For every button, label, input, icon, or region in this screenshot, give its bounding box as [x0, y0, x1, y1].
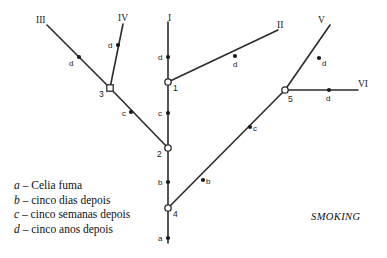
marker-d-branch-ii [233, 54, 237, 58]
node-3-marker [107, 85, 113, 91]
node-3-label: 3 [99, 90, 104, 99]
legend-text: cinco dias depois [31, 194, 110, 206]
branch-label-v: V [318, 16, 325, 26]
edge-5-to-v [285, 25, 330, 90]
diagram-page: IIIIIIIVVVI 12345 abbcccdddddd a – Celia… [0, 0, 387, 258]
marker-d-branch-iv-label: d [108, 42, 112, 50]
legend-row: d – cinco anos depois [14, 222, 130, 237]
marker-c-branch-45 [248, 125, 252, 129]
edge-1-to-ii [168, 30, 278, 82]
legend-row: a – Celia fuma [14, 178, 130, 193]
legend-text: cinco semanas depois [31, 208, 131, 220]
marker-d-branch-vi-label: d [326, 95, 330, 103]
legend-text: Celia fuma [31, 179, 82, 191]
node-2-marker [165, 145, 171, 151]
marker-d-trunk-label: d [158, 54, 162, 62]
legend-key: c [14, 208, 19, 220]
marker-a-trunk-label: a [158, 235, 162, 243]
legend-key: d [14, 223, 20, 235]
branch-label-vi: VI [358, 80, 368, 90]
node-4-marker [165, 205, 171, 211]
legend-text: cinco anos depois [31, 223, 113, 235]
marker-b-trunk-label: b [158, 179, 162, 187]
marker-d-branch-iii [77, 55, 81, 59]
marker-c-branch-23 [129, 110, 133, 114]
branch-nodes-group [107, 79, 288, 211]
legend: a – Celia fumab – cinco dias depoisc – c… [14, 178, 130, 236]
figure-caption: SMOKING [311, 211, 360, 222]
marker-d-branch-v-label: d [322, 60, 326, 68]
marker-d-branch-ii-label: d [233, 61, 237, 69]
branch-label-iv: IV [118, 14, 128, 24]
marker-d-branch-iii-label: d [69, 60, 73, 68]
legend-dash: – [23, 194, 32, 206]
marker-d-trunk [166, 55, 170, 59]
marker-b-trunk [166, 180, 170, 184]
marker-d-branch-vi [327, 88, 331, 92]
marker-c-branch-23-label: c [122, 110, 126, 118]
node-1-label: 1 [173, 84, 178, 93]
branch-label-iii: III [36, 16, 46, 26]
node-5-label: 5 [288, 95, 293, 104]
legend-dash: – [23, 223, 32, 235]
marker-a-trunk [166, 236, 170, 240]
edge-4-to-5 [168, 90, 285, 208]
legend-dash: – [23, 179, 32, 191]
marker-d-branch-iv [116, 43, 120, 47]
branch-label-ii: II [277, 21, 283, 31]
edge-3-to-iv [110, 24, 123, 88]
marker-d-branch-v [317, 56, 321, 60]
node-2-label: 2 [157, 150, 162, 159]
legend-row: c – cinco semanas depois [14, 207, 130, 222]
marker-b-branch-45-label: b [206, 178, 210, 186]
marker-c-branch-45-label: c [253, 125, 257, 133]
legend-key: b [14, 194, 20, 206]
branch-label-i: I [168, 14, 171, 24]
node-4-label: 4 [173, 210, 178, 219]
node-1-marker [165, 79, 171, 85]
legend-key: a [14, 179, 20, 191]
marker-c-trunk-label: c [158, 110, 162, 118]
edge-2-to-3 [110, 88, 168, 148]
marker-c-trunk [166, 111, 170, 115]
legend-dash: – [22, 208, 31, 220]
node-5-marker [282, 87, 288, 93]
legend-row: b – cinco dias depois [14, 193, 130, 208]
marker-b-branch-45 [201, 178, 205, 182]
